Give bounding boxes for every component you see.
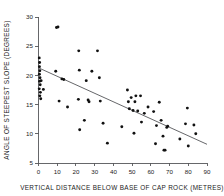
scatter-point bbox=[194, 132, 197, 135]
scatter-point bbox=[39, 97, 42, 100]
scatter-point bbox=[127, 100, 130, 103]
y-tick-label: 15 bbox=[26, 101, 33, 108]
scatter-point bbox=[98, 76, 101, 79]
scatter-point bbox=[38, 56, 41, 59]
scatter-point bbox=[54, 70, 57, 73]
scatter-plot-figure: 51015202530 0102030405060708090 VERTICAL… bbox=[0, 0, 224, 196]
scatter-point bbox=[39, 76, 42, 79]
scatter-point bbox=[78, 128, 81, 131]
x-tick-label: 40 bbox=[110, 168, 117, 175]
scatter-point bbox=[164, 149, 167, 152]
scatter-point bbox=[40, 79, 43, 82]
scatter-point bbox=[58, 100, 61, 103]
scatter-point bbox=[139, 94, 142, 97]
y-tick-label: 20 bbox=[26, 72, 33, 79]
x-tick-label: 50 bbox=[129, 168, 136, 175]
y-axis-title: ANGLE OF STEEPEST SLOPE (DEGREES) bbox=[3, 20, 11, 159]
x-tick-label: 30 bbox=[91, 168, 98, 175]
x-tick-label: 80 bbox=[185, 168, 192, 175]
scatter-point bbox=[106, 142, 109, 145]
x-tick-label: 90 bbox=[204, 168, 211, 175]
scatter-point bbox=[38, 73, 41, 76]
x-axis-ticks: 0102030405060708090 bbox=[37, 163, 211, 175]
scatter-point bbox=[134, 94, 137, 97]
y-axis-ticks: 51015202530 bbox=[26, 13, 38, 166]
scatter-point bbox=[178, 138, 181, 141]
scatter-point bbox=[155, 124, 158, 127]
scatter-point bbox=[132, 109, 135, 112]
scatter-point bbox=[96, 49, 99, 52]
axes-group bbox=[39, 17, 208, 164]
y-tick-label: 25 bbox=[26, 42, 33, 49]
scatter-point bbox=[42, 88, 45, 91]
scatter-point bbox=[162, 135, 165, 138]
scatter-point bbox=[154, 142, 157, 145]
x-tick-label: 0 bbox=[37, 168, 41, 175]
scatter-point bbox=[38, 69, 41, 72]
scatter-point bbox=[120, 125, 123, 128]
chart-canvas: 51015202530 0102030405060708090 VERTICAL… bbox=[0, 0, 224, 196]
scatter-point bbox=[38, 61, 41, 64]
scatter-point bbox=[57, 25, 60, 28]
scatter-point bbox=[77, 49, 80, 52]
y-tick-label: 10 bbox=[26, 130, 33, 137]
x-tick-label: 20 bbox=[72, 168, 79, 175]
scatter-point bbox=[77, 98, 80, 101]
x-tick-label: 70 bbox=[166, 168, 173, 175]
scatter-point bbox=[184, 122, 187, 125]
scatter-point bbox=[88, 100, 91, 103]
scatter-point bbox=[99, 100, 102, 103]
scatter-point bbox=[39, 91, 42, 94]
scatter-point bbox=[38, 87, 41, 90]
scatter-point bbox=[126, 89, 129, 92]
scatter-point bbox=[158, 101, 161, 104]
scatter-point bbox=[102, 122, 105, 125]
scatter-points-group bbox=[38, 25, 197, 151]
scatter-point bbox=[187, 145, 190, 148]
scatter-point bbox=[66, 105, 69, 108]
scatter-point bbox=[186, 107, 189, 110]
y-tick-label: 5 bbox=[30, 159, 34, 166]
scatter-point bbox=[152, 110, 155, 113]
scatter-point bbox=[192, 124, 195, 127]
scatter-point bbox=[136, 110, 139, 113]
scatter-point bbox=[39, 83, 42, 86]
x-tick-label: 10 bbox=[54, 168, 61, 175]
scatter-point bbox=[85, 79, 88, 82]
x-tick-label: 60 bbox=[147, 168, 154, 175]
scatter-point bbox=[128, 107, 131, 110]
scatter-point bbox=[83, 119, 86, 122]
scatter-point bbox=[38, 94, 41, 97]
scatter-point bbox=[166, 125, 169, 128]
scatter-point bbox=[147, 105, 150, 108]
scatter-point bbox=[160, 119, 163, 122]
scatter-point bbox=[62, 78, 65, 81]
scatter-point bbox=[143, 112, 146, 115]
scatter-point bbox=[140, 121, 143, 124]
scatter-point bbox=[133, 132, 136, 135]
scatter-point bbox=[78, 69, 81, 72]
scatter-point bbox=[38, 65, 41, 68]
scatter-point bbox=[90, 70, 93, 73]
scatter-point bbox=[133, 100, 136, 103]
y-tick-label: 30 bbox=[26, 13, 33, 20]
x-axis-title: VERTICAL DISTANCE BELOW BASE OF CAP ROCK… bbox=[20, 184, 224, 192]
scatter-point bbox=[130, 96, 133, 99]
